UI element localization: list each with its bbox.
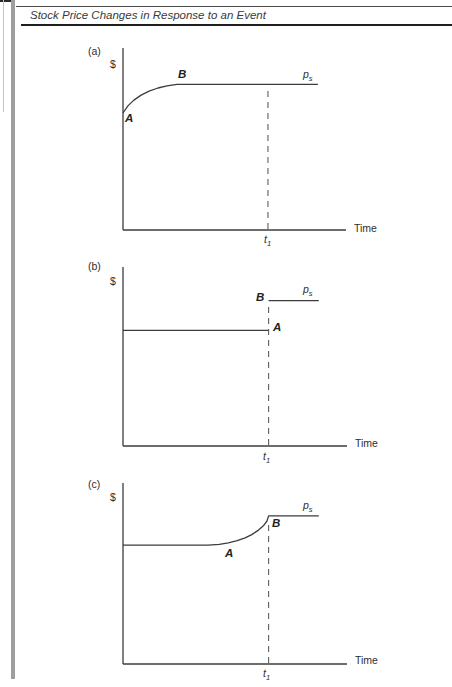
panel-b-time-axis-label: Time bbox=[355, 438, 378, 449]
panel-a-dollar-axis-label: $ bbox=[110, 59, 116, 70]
panel-c-time-axis-label: Time bbox=[355, 655, 378, 666]
figure-canvas bbox=[0, 0, 452, 687]
figure-page: Stock Price Changes in Response to an Ev… bbox=[0, 0, 452, 687]
panel-b-tag: (b) bbox=[88, 261, 101, 272]
panel-a-point-b-label: B bbox=[178, 69, 186, 81]
panel-c-dollar-axis-label: $ bbox=[110, 492, 116, 503]
panel-c-price-ps-label: ps bbox=[303, 500, 313, 511]
panel-c-tag: (c) bbox=[88, 479, 100, 490]
panel-c-stock-price-curve bbox=[123, 516, 319, 545]
panel-b-t1-tick-label: t1 bbox=[263, 451, 270, 462]
panel-c-point-a-label: A bbox=[225, 548, 233, 560]
panel-c-point-b-label: B bbox=[272, 518, 280, 530]
panel-a-t1-tick-label: t1 bbox=[264, 234, 271, 245]
panel-b-price-ps-label: ps bbox=[303, 284, 313, 295]
panel-a-tag: (a) bbox=[88, 46, 101, 57]
panel-a-time-axis-label: Time bbox=[354, 223, 377, 234]
panel-b-dollar-axis-label: $ bbox=[110, 276, 116, 287]
panel-a-point-a-label: A bbox=[125, 113, 133, 125]
panel-b-point-b-label: B bbox=[256, 292, 264, 304]
panel-a-price-ps-label: ps bbox=[303, 69, 313, 80]
panel-a-stock-price-curve bbox=[123, 84, 318, 113]
panel-b-point-a-label: A bbox=[273, 322, 281, 334]
panel-c-t1-tick-label: t1 bbox=[263, 668, 270, 679]
